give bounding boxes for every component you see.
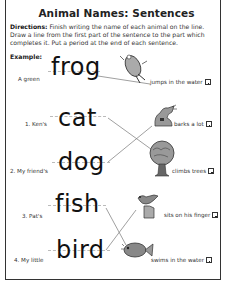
item-2-sentence-start: 2. My friend's (10, 168, 48, 174)
item-4-sentence-end-text: swims in the water (151, 257, 204, 263)
example-sentence-end-text: jumps in the water (150, 79, 203, 85)
period-box[interactable] (206, 121, 212, 127)
tree-icon (148, 140, 176, 182)
item-3-sentence-start: 3. Pat's (22, 213, 42, 219)
item-3-sentence-end-text: sits on his finger (164, 212, 210, 218)
period-box[interactable] (208, 168, 214, 174)
item-4-sentence-start: 4. My little (14, 257, 44, 263)
fish-icon (120, 240, 154, 264)
bird-icon (134, 192, 162, 224)
item-3-animal-word: fish (55, 192, 100, 216)
matching-lines (0, 0, 233, 287)
item-1-sentence-end: barks a lot (174, 121, 212, 127)
item-2-sentence-end: climbs trees (172, 168, 214, 174)
example-sentence-end: jumps in the water (150, 79, 211, 85)
item-1-animal-word: cat (58, 106, 97, 130)
item-2-animal-word: dog (58, 150, 105, 174)
example-animal-word: frog (51, 55, 101, 79)
period-box[interactable] (212, 212, 218, 218)
example-sentence-start: A green (18, 76, 40, 82)
item-3-sentence-end: sits on his finger (164, 212, 218, 218)
item-1-sentence-start: 1. Ken's (25, 121, 47, 127)
period-box[interactable] (205, 79, 211, 85)
dog-icon (152, 104, 178, 132)
item-4-sentence-end: swims in the water (151, 257, 212, 263)
item-4-animal-word: bird (56, 238, 105, 262)
item-1-sentence-end-text: barks a lot (174, 121, 204, 127)
frog-icon (118, 52, 150, 90)
period-box[interactable] (206, 257, 212, 263)
item-2-sentence-end-text: climbs trees (172, 168, 206, 174)
